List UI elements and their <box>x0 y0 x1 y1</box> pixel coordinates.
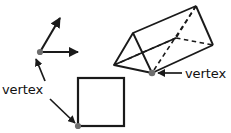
geometry-canvas: vertex vertex <box>0 0 231 133</box>
prism-far-triangle-visible <box>196 6 213 45</box>
prism-hidden-edge-back-to-right <box>176 38 213 45</box>
left-vertex-label: vertex <box>2 82 43 97</box>
pointer-left-label-to-angle <box>36 59 45 81</box>
prism-vertex-dot <box>149 70 156 77</box>
square-figure <box>75 78 124 129</box>
square-vertex-dot <box>75 123 81 129</box>
angle-vertex-dot <box>37 49 43 55</box>
angle-ray-upper <box>40 18 60 52</box>
vertex-diagram: vertex vertex <box>0 0 231 133</box>
square-outline <box>78 78 124 126</box>
right-vertex-label: vertex <box>185 66 226 81</box>
prism-hidden-edge-back-to-nearleft <box>114 38 176 65</box>
pointer-left-label-to-square <box>50 99 75 123</box>
angle-figure <box>37 18 78 55</box>
prism-near-triangle <box>114 33 152 73</box>
